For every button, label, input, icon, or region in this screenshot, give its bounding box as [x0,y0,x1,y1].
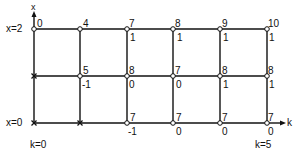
node-subvalue: -1 [128,127,137,137]
node-subvalue: -1 [82,80,91,90]
node-value: 7 [222,113,228,123]
node-value: 7 [175,66,181,76]
node-subvalue: 1 [223,33,229,43]
boundary-cross-icons [32,74,83,126]
node-value: 8 [222,66,228,76]
grid-diagram [0,0,296,153]
node-subvalue: 1 [223,80,229,90]
node-value: 7 [176,113,182,123]
row-label-x2: x=2 [6,24,22,34]
node-value: 5 [83,66,89,76]
col-label-k0: k=0 [30,140,46,150]
node-value: 10 [268,19,279,29]
node-value: 8 [268,66,274,76]
k-axis-arrow-icon [280,121,286,126]
node-value: 7 [268,113,274,123]
node-subvalue: 0 [268,127,274,137]
col-label-k5: k=5 [255,140,271,150]
node-value: 0 [37,19,43,29]
node-value: 7 [130,113,136,123]
k-axis-label: k [287,118,292,128]
node-subvalue: 1 [269,33,275,43]
node-subvalue: 0 [222,127,228,137]
row-label-x0: x=0 [6,118,22,128]
x-axis-label: x [31,2,36,12]
node-subvalue: 0 [129,80,135,90]
node-value: 4 [83,19,89,29]
node-value: 8 [129,66,135,76]
node-value: 7 [129,19,135,29]
node-subvalue: 1 [269,80,275,90]
node-value: 8 [175,19,181,29]
node-value: 9 [222,19,228,29]
node-subvalue: 0 [176,127,182,137]
node-subvalue: 0 [176,80,182,90]
node-subvalue: 1 [130,33,136,43]
node-subvalue: 1 [177,33,183,43]
